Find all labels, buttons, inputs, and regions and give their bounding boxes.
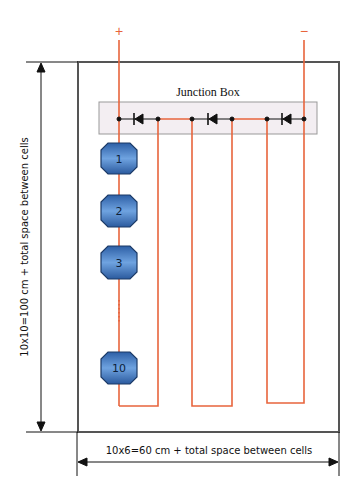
svg-text:2: 2 (116, 205, 123, 218)
junction-box-label: Junction Box (176, 85, 240, 99)
vertical-dimension (26, 62, 78, 432)
svg-text:3: 3 (116, 257, 123, 270)
cell-3: 3 (101, 246, 137, 279)
solar-module-diagram: Junction Box + − 1 2 3 (0, 0, 358, 496)
negative-terminal-label: − (300, 23, 308, 39)
cell-2: 2 (101, 195, 137, 227)
svg-text:10: 10 (112, 362, 126, 375)
horizontal-dimension-label: 10x6=60 cm + total space between cells (106, 445, 313, 456)
vertical-dimension-label: 10x10=100 cm + total space between cells (19, 137, 30, 356)
cell-10: 10 (101, 352, 137, 384)
svg-text:1: 1 (116, 153, 123, 166)
positive-terminal-label: + (115, 23, 123, 39)
cell-1: 1 (101, 143, 137, 174)
